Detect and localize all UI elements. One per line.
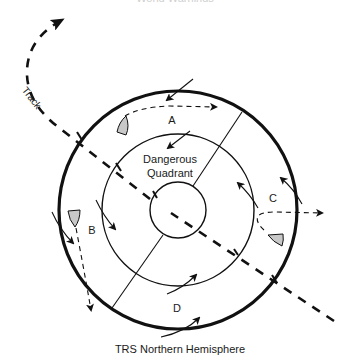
outer-circle (59, 91, 297, 329)
storm-rings (59, 91, 297, 329)
dangerous-quadrant-label-line1: Dangerous (143, 153, 197, 165)
sail-icon-c (268, 234, 283, 246)
vessel-path-b (76, 228, 91, 310)
eye-circle (150, 182, 206, 238)
sail-icon-b (68, 210, 80, 227)
wind-arrow-top-outer (167, 79, 193, 100)
zone-label-d: D (173, 302, 181, 314)
figure-caption: TRS Northern Hemisphere (115, 343, 245, 355)
track-label: Track (20, 85, 44, 112)
dangerous-quadrant-label-line2: Quadrant (147, 167, 193, 179)
zone-label-b: B (88, 224, 95, 236)
wind-arrows (52, 79, 302, 337)
wind-arrow-left-inner (96, 200, 115, 229)
wind-arrow-right-inner (238, 183, 258, 208)
vessel-path-c (257, 212, 322, 230)
wind-arrow-right-outer (281, 178, 302, 204)
zone-label-a: A (168, 114, 176, 126)
vessels (68, 116, 283, 246)
zone-label-c: C (269, 192, 277, 204)
sail-icon-a (117, 116, 128, 135)
trs-diagram: A B C D Dangerous Quadrant Track TRS Nor… (0, 0, 353, 364)
